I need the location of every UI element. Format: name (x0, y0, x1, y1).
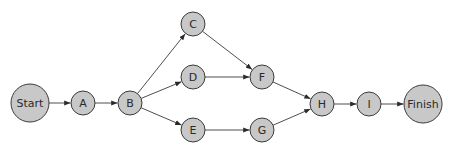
node-start: Start (11, 84, 49, 122)
node-label: E (190, 124, 197, 137)
node-label: H (318, 98, 326, 111)
node-label: B (126, 97, 134, 110)
node-e: E (181, 118, 205, 142)
edge-f-to-h (273, 82, 311, 99)
node-d: D (181, 65, 205, 89)
node-c: C (181, 12, 205, 36)
edge-b-to-c (137, 34, 185, 94)
node-label: G (258, 124, 267, 137)
node-label: I (367, 98, 370, 111)
node-label: F (259, 71, 265, 84)
edge-b-to-e (141, 108, 181, 125)
node-label: D (189, 71, 197, 84)
node-label: C (189, 18, 197, 31)
node-finish: Finish (404, 85, 442, 123)
node-g: G (250, 118, 274, 142)
node-i: I (357, 92, 381, 116)
node-f: F (250, 65, 274, 89)
node-a: A (71, 91, 95, 115)
node-b: B (118, 91, 142, 115)
edge-c-to-f (203, 31, 253, 69)
node-label: A (79, 97, 87, 110)
node-label: Start (17, 97, 45, 110)
network-diagram: StartABCDEFGHIFinish (0, 0, 450, 154)
node-h: H (310, 92, 334, 116)
edges (49, 31, 404, 130)
edge-b-to-d (141, 82, 181, 99)
edge-g-to-h (273, 109, 311, 125)
node-label: Finish (407, 98, 438, 111)
